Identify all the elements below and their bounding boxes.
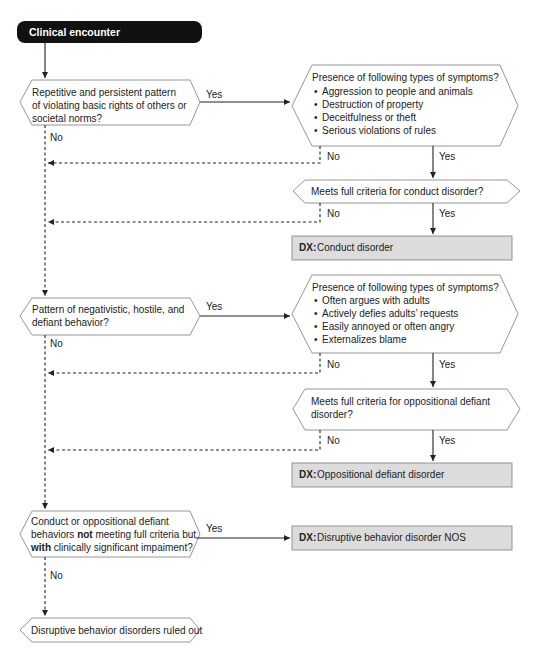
diagnosis-odd: DX: Oppositional defiant disorder <box>292 463 512 487</box>
cd-symptoms-title: Presence of following types of symptoms? <box>312 72 499 83</box>
arrow-cd-symptoms-no <box>48 146 320 163</box>
dx-prefix: DX: <box>299 242 316 253</box>
q3-no-label: No <box>50 570 63 581</box>
cd-criteria-yes-label: Yes <box>439 208 455 219</box>
cd-criteria-no-label: No <box>327 208 340 219</box>
decision-q1-line: of violating basic rights of others or <box>32 100 187 111</box>
arrow-odd-symptoms-no <box>48 353 320 373</box>
decision-q1-line: Repetitive and persistent pattern <box>32 87 176 98</box>
terminal-ruled-out-label: Disruptive behavior disorders ruled out <box>31 625 202 636</box>
flowchart-canvas: Clinical encounter Repetitive and persis… <box>0 0 541 659</box>
diagnosis-conduct-disorder: DX: Conduct disorder <box>292 236 512 260</box>
decision-odd-symptoms: Presence of following types of symptoms?… <box>292 275 518 353</box>
odd-symptoms-title: Presence of following types of symptoms? <box>312 282 499 293</box>
dx-label: Conduct disorder <box>317 242 394 253</box>
decision-q2: Pattern of negativistic, hostile, and de… <box>20 298 200 335</box>
decision-q3-line: behaviors not meeting full criteria but <box>31 529 196 540</box>
arrow-odd-criteria-no <box>48 430 320 450</box>
decision-q3-line: with clinically significant impaiment? <box>30 542 193 553</box>
odd-symptoms-yes-label: Yes <box>439 359 455 370</box>
decision-q1-line: societal norms? <box>32 113 102 124</box>
svg-text:•: • <box>314 295 318 306</box>
svg-text:•: • <box>314 308 318 319</box>
cd-symptoms-no-label: No <box>327 151 340 162</box>
dx-prefix: DX: <box>299 532 316 543</box>
odd-criteria-yes-label: Yes <box>439 435 455 446</box>
svg-text:•: • <box>314 125 318 136</box>
decision-cd-symptoms: Presence of following types of symptoms?… <box>292 65 518 146</box>
cd-symptom-item: Aggression to people and animals <box>322 86 473 97</box>
odd-criteria-line: Meets full criteria for oppositional def… <box>311 396 490 407</box>
arrow-cd-criteria-no <box>48 203 320 222</box>
odd-symptom-item: Easily annoyed or often angry <box>322 321 454 332</box>
cd-symptom-item: Destruction of property <box>322 99 423 110</box>
q1-no-label: No <box>50 132 63 143</box>
q3-yes-label: Yes <box>206 523 222 534</box>
start-node: Clinical encounter <box>17 21 202 43</box>
cd-criteria-line: Meets full criteria for conduct disorder… <box>311 186 484 197</box>
decision-q3: Conduct or oppositional defiant behavior… <box>20 511 200 557</box>
odd-symptoms-no-label: No <box>327 359 340 370</box>
diagnosis-nos: DX: Disruptive behavior disorder NOS <box>292 526 512 550</box>
odd-symptom-item: Actively defies adults’ requests <box>322 308 458 319</box>
q1-yes-label: Yes <box>206 89 222 100</box>
svg-text:•: • <box>314 99 318 110</box>
q2-yes-label: Yes <box>206 301 222 312</box>
start-node-label: Clinical encounter <box>29 26 120 38</box>
dx-prefix: DX: <box>299 469 316 480</box>
q2-no-label: No <box>50 338 63 349</box>
odd-criteria-line: disorder? <box>311 409 353 420</box>
odd-symptom-item: Externalizes blame <box>322 334 407 345</box>
decision-odd-criteria: Meets full criteria for oppositional def… <box>293 389 520 430</box>
cd-symptom-item: Serious violations of rules <box>322 125 436 136</box>
odd-symptom-item: Often argues with adults <box>322 295 430 306</box>
cd-symptoms-yes-label: Yes <box>439 151 455 162</box>
svg-text:•: • <box>314 334 318 345</box>
decision-q1: Repetitive and persistent pattern of vio… <box>20 80 200 125</box>
svg-text:•: • <box>314 321 318 332</box>
cd-symptom-item: Deceitfulness or theft <box>322 112 416 123</box>
decision-q2-line: Pattern of negativistic, hostile, and <box>32 304 184 315</box>
odd-criteria-no-label: No <box>327 435 340 446</box>
svg-text:•: • <box>314 112 318 123</box>
decision-cd-criteria: Meets full criteria for conduct disorder… <box>293 180 520 203</box>
dx-label: Disruptive behavior disorder NOS <box>317 532 466 543</box>
decision-q2-line: defiant behavior? <box>32 317 109 328</box>
terminal-ruled-out: Disruptive behavior disorders ruled out <box>20 618 202 642</box>
decision-q3-line: Conduct or oppositional defiant <box>31 516 169 527</box>
dx-label: Oppositional defiant disorder <box>317 469 445 480</box>
svg-text:•: • <box>314 86 318 97</box>
